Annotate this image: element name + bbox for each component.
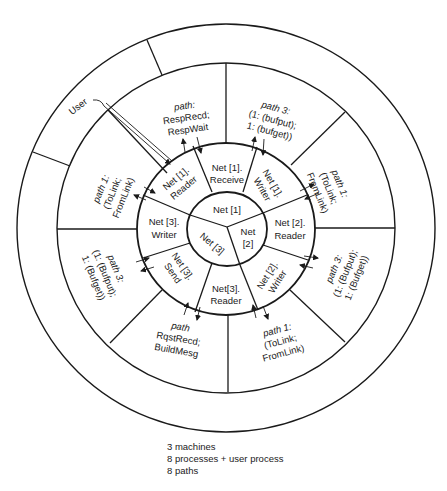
user-divider-lower bbox=[33, 152, 70, 166]
path-resp-label: path:RespRecd;RespWait bbox=[160, 97, 211, 138]
process-net2-reader: Net [2].Reader bbox=[274, 217, 305, 241]
process-net3-send: Net [3].Send bbox=[160, 250, 196, 288]
process-net3-reader: Net[3].Reader bbox=[210, 283, 241, 306]
path-left-lower-label: path 3:(1: (Bufput);1: (Bufget)) bbox=[79, 243, 130, 303]
process-net3-writer: Net [3].Writer bbox=[149, 216, 180, 240]
user-divider-upper bbox=[147, 40, 162, 75]
legend-processes: 8 processes + user process bbox=[167, 453, 283, 465]
path-left-upper-label: path 1:(ToLink;FromLink) bbox=[88, 167, 136, 220]
path-rqst-label: pathRqstRecd;BuildMesg bbox=[154, 317, 204, 359]
process-net1-writer: Net [1].Writer bbox=[250, 167, 285, 205]
process-net1-reader: Net [1].Reader bbox=[160, 164, 199, 202]
machine-net2: Net[2] bbox=[241, 226, 256, 249]
path-bottom-right-label: path 1:(ToLink;FromLink) bbox=[255, 319, 305, 364]
machine-net1: Net [1] bbox=[213, 204, 241, 215]
user-label: User bbox=[67, 96, 90, 117]
path-top-right-label: path 3:(1: (bufput);1: (bufget)) bbox=[245, 96, 301, 143]
process-net1-receive: Net [1].Receive bbox=[210, 162, 244, 185]
user-connector bbox=[93, 100, 172, 164]
process-net2-writer: Net [2].Writer bbox=[254, 259, 290, 297]
path-right-lower-label: path 3:(1: (Bufput);1: (Bufget)) bbox=[319, 243, 370, 303]
legend-paths: 8 paths bbox=[167, 465, 283, 477]
machine-net3: Net [3] bbox=[198, 230, 227, 256]
legend: 3 machines 8 processes + user process 8 … bbox=[167, 441, 283, 477]
path-dividers bbox=[57, 63, 395, 392]
process-ring-diagram: User Net [1] Net[2] Net [3] Net [1].Rece… bbox=[0, 0, 447, 491]
legend-machines: 3 machines bbox=[167, 441, 283, 453]
